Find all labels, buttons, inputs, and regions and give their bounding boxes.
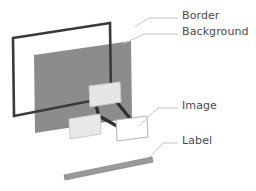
image-node-top-shape	[89, 82, 121, 107]
diagram-canvas: Border Background Image Label	[0, 0, 256, 191]
leader-line-border	[135, 18, 178, 27]
label-bar-shape	[64, 157, 153, 180]
image-node-left-shape	[69, 114, 101, 139]
callout-label-background: Background	[182, 25, 249, 38]
callout-label-image: Image	[182, 99, 217, 112]
layer-anatomy-diagram: Border Background Image Label	[0, 0, 256, 191]
image-node-right-shape	[116, 116, 148, 141]
leader-line-label	[150, 143, 178, 157]
leader-line-background	[123, 34, 178, 44]
callout-label-label: Label	[182, 134, 212, 147]
callout-label-border: Border	[182, 9, 220, 22]
